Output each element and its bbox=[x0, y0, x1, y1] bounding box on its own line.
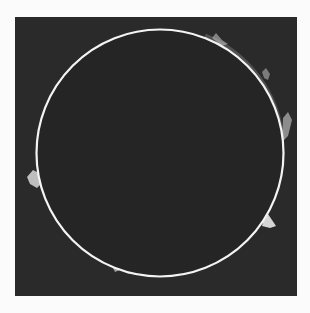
solar-image-canvas bbox=[0, 0, 310, 313]
solar-disk bbox=[37, 30, 284, 277]
solar-disk-photo bbox=[0, 0, 310, 313]
